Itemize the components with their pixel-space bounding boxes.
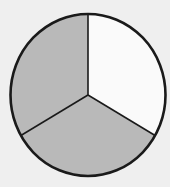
fraction-circle-diagram xyxy=(0,0,170,187)
